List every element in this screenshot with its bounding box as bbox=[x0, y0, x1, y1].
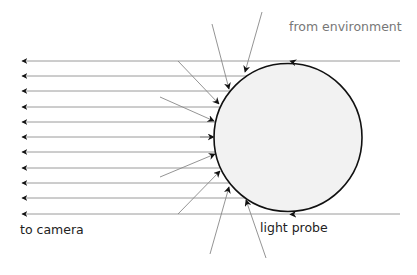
incoming-ray bbox=[210, 187, 229, 254]
incoming-ray bbox=[178, 171, 220, 214]
incoming-ray bbox=[160, 97, 214, 121]
to-camera-label: to camera bbox=[20, 222, 84, 237]
from-environment-label: from environment bbox=[289, 19, 402, 34]
incoming-ray bbox=[178, 61, 219, 104]
light-probe-label: light probe bbox=[260, 220, 328, 235]
incoming-ray bbox=[160, 154, 215, 177]
incoming-ray bbox=[212, 24, 229, 89]
light-probe-diagram: from environment to camera light probe bbox=[0, 0, 417, 275]
incoming-ray bbox=[245, 12, 262, 72]
light-probe-sphere bbox=[214, 64, 362, 212]
